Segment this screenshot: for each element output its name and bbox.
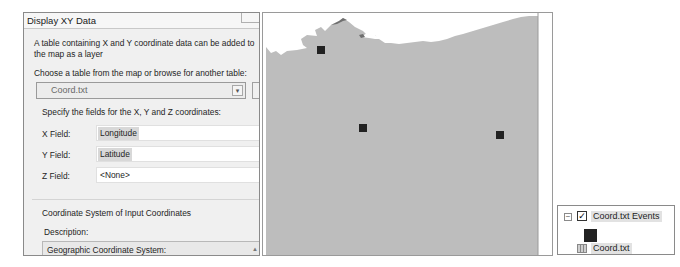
choose-table-label: Choose a table from the map or browse fo… [34, 68, 247, 78]
dropdown-arrow-icon[interactable] [259, 152, 260, 156]
xy-event-point [496, 131, 504, 139]
layer-name-coord-events[interactable]: Coord.txt Events [591, 211, 662, 222]
map-view[interactable] [262, 12, 553, 256]
description-box[interactable]: Geographic Coordinate System: Name: GCS_… [42, 241, 260, 256]
specify-fields-label: Specify the fields for the X, Y and Z co… [42, 107, 221, 117]
dialog-body: A table containing X and Y coordinate da… [24, 30, 259, 255]
browse-button[interactable] [252, 82, 260, 99]
description-line-1: Geographic Coordinate System: [47, 245, 166, 255]
x-field-value: Longitude [98, 127, 139, 140]
z-field-select[interactable]: <None> [96, 167, 260, 183]
layer-visibility-checkbox[interactable]: ✓ [577, 211, 587, 221]
x-field-row: X Field: Longitude [42, 125, 260, 142]
dialog-title: Display XY Data [24, 13, 259, 29]
y-field-row: Y Field: Latitude [42, 146, 260, 163]
y-field-select[interactable]: Latitude [96, 146, 260, 162]
xy-event-point [317, 46, 325, 54]
z-field-label: Z Field: [42, 171, 70, 181]
y-field-value: Latitude [98, 148, 132, 161]
description-line-2: Name: GCS_North_American_1983 [50, 255, 186, 256]
table-of-contents: − ✓ Coord.txt Events Coord.txt [557, 205, 675, 255]
coordinate-system-title: Coordinate System of Input Coordinates [42, 208, 191, 218]
table-name-coord[interactable]: Coord.txt [591, 243, 632, 254]
dropdown-arrow-icon[interactable] [259, 131, 260, 135]
title-bar-corner [241, 13, 259, 23]
point-symbol-icon[interactable] [584, 229, 597, 242]
display-xy-data-dialog: Display XY Data A table containing X and… [23, 12, 260, 256]
intro-text: A table containing X and Y coordinate da… [34, 38, 259, 60]
collapse-icon[interactable]: − [564, 213, 572, 221]
x-field-select[interactable]: Longitude [96, 125, 260, 141]
table-select[interactable]: Coord.txt ▾ [36, 82, 246, 99]
x-field-label: X Field: [42, 129, 70, 139]
xy-event-point [359, 124, 367, 132]
scroll-up-icon[interactable]: ▲ [252, 246, 258, 252]
table-select-value: Coord.txt [51, 85, 88, 95]
z-field-row: Z Field: <None> [42, 167, 260, 184]
section-divider [32, 199, 259, 200]
chevron-down-icon[interactable]: ▾ [232, 85, 243, 96]
z-field-value: <None> [98, 169, 132, 182]
description-label: Description: [44, 227, 88, 237]
table-icon [577, 244, 587, 253]
dropdown-arrow-icon[interactable] [259, 173, 260, 177]
map-canvas [263, 13, 553, 256]
y-field-label: Y Field: [42, 150, 70, 160]
